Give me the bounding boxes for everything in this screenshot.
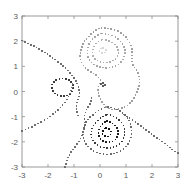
contour-dot [123, 56, 125, 58]
contour-dot [110, 147, 112, 149]
contour-dot [123, 137, 125, 139]
contour-dot [67, 70, 69, 72]
contour-dot [47, 118, 49, 120]
contour-dot [119, 110, 121, 112]
contour-dot [69, 72, 71, 74]
contour-dot [86, 109, 88, 111]
contour-dot [104, 135, 106, 137]
contour-dot [104, 128, 106, 130]
contour-dot [90, 148, 92, 150]
contour-dot [127, 105, 129, 107]
contour-dot [97, 144, 99, 146]
contour-dot [76, 143, 78, 145]
contour-dot [127, 39, 129, 41]
contour-dot [83, 137, 85, 139]
contour-dot [117, 133, 119, 135]
contour-dot [52, 90, 54, 92]
contour-dot [28, 127, 30, 129]
contour-dot [101, 108, 103, 110]
contour-dot [90, 71, 92, 73]
contour-dot [133, 97, 135, 99]
contour-dot [85, 121, 87, 123]
contour-dot [49, 116, 51, 118]
contour-dot [109, 61, 111, 63]
contour-dot [159, 139, 161, 141]
contour-dot [110, 28, 112, 30]
contour-dot [112, 66, 114, 68]
contour-dot [109, 141, 111, 143]
contour-dot [151, 133, 153, 135]
contour-dot [102, 47, 104, 49]
contour-dot [78, 86, 80, 88]
contour-dot [31, 126, 33, 128]
contour-dot [100, 79, 102, 81]
contour-dot [91, 97, 93, 99]
contour-dot [76, 111, 78, 113]
contour-dot [89, 103, 91, 105]
contour-dot [118, 119, 120, 121]
y-tick-label: 1 [14, 62, 19, 71]
contour-dot [102, 140, 104, 142]
contour-dot [71, 87, 73, 89]
contour-dot [110, 134, 112, 136]
contour-dot [93, 73, 95, 75]
contour-dot [90, 100, 92, 102]
contour-dot [108, 34, 110, 36]
contour-dot [27, 43, 29, 45]
contour-dot [60, 63, 62, 65]
contour-dot [54, 93, 56, 95]
contour-dot [34, 124, 36, 126]
contour-dot [103, 147, 105, 149]
contour-dot [97, 120, 99, 122]
contour-dot [130, 45, 132, 47]
contour-dot [98, 77, 100, 79]
contour-dot [131, 61, 133, 63]
contour-dot [78, 96, 80, 98]
contour-dot [104, 84, 106, 86]
contour-dot [134, 67, 136, 69]
contour-dot [101, 101, 103, 103]
contour-dot [55, 111, 57, 113]
contour-dot [117, 55, 119, 57]
contour-dot [54, 59, 56, 61]
contour-dot [119, 143, 121, 145]
contour-dot [72, 83, 74, 85]
contour-dot [62, 65, 64, 67]
contour-dot [84, 125, 86, 127]
contour-dot [131, 51, 133, 53]
contour-dot [87, 106, 89, 108]
contour-dot [88, 43, 90, 45]
contour-dot [115, 36, 117, 38]
contour-dot [113, 153, 115, 155]
contour-dot [33, 45, 35, 47]
contour-dot [84, 115, 86, 117]
x-tick-label: -3 [18, 171, 26, 180]
contour-dot [174, 151, 176, 153]
contour-dot [93, 150, 95, 152]
contour-dot [124, 106, 126, 108]
contour-dot [106, 114, 108, 116]
contour-plot-figure: -3-2-101233210-1-2-3 [0, 0, 192, 196]
contour-dot [79, 92, 81, 94]
contour-dot [57, 94, 59, 96]
contour-dot [112, 123, 114, 125]
contour-dot [98, 41, 100, 43]
contour-dot [80, 138, 82, 140]
contour-dot [94, 36, 96, 38]
contour-dot [95, 112, 97, 114]
contour-dot [138, 85, 140, 87]
contour-dot [76, 108, 78, 110]
y-tick-label: -3 [11, 163, 19, 172]
contour-dot [130, 137, 132, 139]
contour-dot [86, 38, 88, 40]
contour-dot [51, 84, 53, 86]
contour-dot [77, 99, 79, 101]
x-tick-label: 1 [124, 171, 129, 180]
contour-dot [129, 117, 131, 119]
contour-dot [120, 61, 122, 63]
contour-dot [68, 79, 70, 81]
contour-dot [121, 122, 123, 124]
contour-dot [116, 127, 118, 129]
contour-dot [106, 62, 108, 64]
contour-dot [69, 154, 71, 156]
